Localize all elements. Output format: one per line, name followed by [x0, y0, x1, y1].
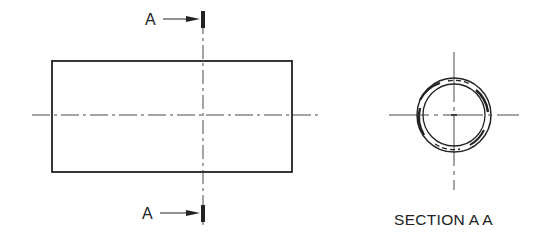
cutting-plane-label-bottom: A: [142, 205, 153, 222]
front-view: [32, 20, 320, 225]
section-view: [389, 52, 519, 190]
cutting-plane-arrow-top: [163, 11, 205, 28]
section-hatch-1: [420, 83, 440, 100]
cutting-plane-label-top: A: [145, 11, 156, 28]
arrowhead-top-icon: [186, 16, 200, 22]
cutting-plane-bar-top: [201, 11, 205, 28]
cylinder-outline: [52, 61, 292, 172]
section-hatch-6: [470, 130, 484, 145]
cutting-plane-arrow-bottom: [160, 205, 205, 222]
technical-drawing: A A SECTION A A: [0, 0, 546, 243]
section-title: SECTION A A: [394, 211, 493, 228]
cutting-plane-bar-bottom: [201, 205, 205, 222]
arrowhead-bottom-icon: [186, 210, 200, 216]
